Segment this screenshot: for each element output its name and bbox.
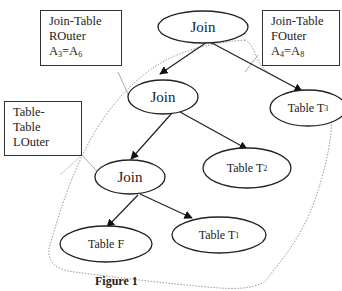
node-table-t3: Table T3: [270, 90, 342, 126]
node-join-top: Join: [158, 11, 248, 43]
node-join-mid: Join: [128, 80, 198, 114]
label-line: FOuter: [271, 29, 333, 44]
label-equation: A4=A8: [271, 44, 333, 62]
label-line: ROuter: [49, 29, 115, 44]
label-equation: A3=A6: [49, 44, 115, 62]
node-table-t1: Table T1: [172, 217, 266, 253]
label-line: Table: [13, 120, 75, 135]
edge-join-low-to-t1: [140, 194, 192, 218]
label-table-table-louter: Table- Table LOuter: [4, 101, 82, 156]
node-table-t2: Table T2: [203, 148, 291, 188]
edge-join-mid-to-join-low: [131, 113, 172, 159]
edge-join-low-to-f: [107, 195, 138, 227]
label-join-table-router: Join-Table ROuter A3=A6: [40, 10, 122, 66]
edge-join-mid-to-t2: [180, 112, 247, 149]
node-join-low: Join: [95, 160, 165, 194]
label-line: Join-Table: [49, 14, 115, 29]
label-line: Table-: [13, 105, 75, 120]
edge-join-top-to-join-mid: [160, 42, 207, 74]
node-table-f: Table F: [60, 226, 152, 262]
pointer-leftouter-2: [60, 155, 82, 175]
figure-caption: Figure 1: [95, 274, 138, 289]
label-line: LOuter: [13, 135, 75, 150]
label-line: Join-Table: [271, 14, 333, 29]
label-join-table-fouter: Join-Table FOuter A4=A8: [262, 10, 340, 66]
